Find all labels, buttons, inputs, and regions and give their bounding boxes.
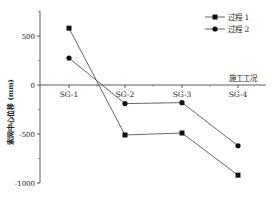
circle-marker — [179, 100, 184, 105]
line-chart: 5000-500-1000SG-1SG-2SG-3SG-4 过程 1过程 2 索… — [0, 0, 275, 197]
series-line — [69, 28, 238, 175]
legend: 过程 1过程 2 — [205, 12, 249, 34]
axes: 5000-500-1000SG-1SG-2SG-3SG-4 — [15, 11, 266, 188]
y-tick-label: -1000 — [15, 180, 35, 188]
x-category-label: SG-1 — [60, 90, 79, 99]
x-category-label: SG-3 — [173, 90, 192, 99]
legend-circle-icon — [212, 26, 217, 31]
circle-marker — [235, 143, 240, 148]
series-line — [69, 58, 238, 146]
square-marker — [123, 132, 128, 137]
square-marker — [236, 173, 241, 178]
y-tick-label: 0 — [31, 82, 35, 90]
circle-marker — [66, 55, 71, 60]
x-axis-label: 施工工况 — [229, 73, 258, 83]
legend-label: 过程 1 — [228, 12, 249, 22]
x-category-label: SG-4 — [229, 90, 248, 99]
x-category-label: SG-2 — [116, 90, 135, 99]
square-marker — [67, 26, 72, 31]
square-marker — [180, 131, 185, 136]
series-group — [66, 26, 240, 178]
legend-square-icon — [213, 15, 218, 20]
circle-marker — [122, 101, 127, 106]
y-tick-label: 500 — [22, 33, 35, 41]
y-tick-label: -500 — [19, 131, 35, 139]
y-axis-label: 索网中心位移 (mm) — [6, 79, 15, 145]
legend-label: 过程 2 — [228, 24, 249, 34]
